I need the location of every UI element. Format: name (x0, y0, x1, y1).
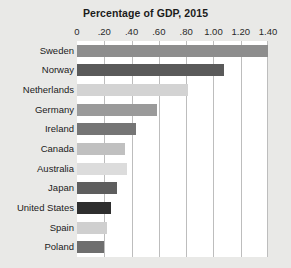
chart-title: Percentage of GDP, 2015 (0, 7, 291, 19)
bar (77, 123, 136, 135)
category-label: Ireland (0, 123, 74, 134)
category-label: Australia (0, 163, 74, 174)
x-tick-label: .20 (98, 26, 111, 37)
bar (77, 104, 157, 116)
bar (77, 202, 111, 214)
x-tick-label: .60 (152, 26, 165, 37)
bars-layer (77, 41, 268, 257)
bar (77, 241, 104, 253)
bar (77, 222, 107, 234)
category-label: Japan (0, 182, 74, 193)
category-label: United States (0, 202, 74, 213)
x-tick-label: 0 (74, 26, 79, 37)
x-tick-label: 1.00 (204, 26, 223, 37)
bar (77, 182, 117, 194)
x-tick-label: 1.20 (231, 26, 250, 37)
bar (77, 163, 127, 175)
category-label: Sweden (0, 45, 74, 56)
x-tick-label: .80 (180, 26, 193, 37)
bar-chart-figure: Percentage of GDP, 2015 0.20.40.60.801.0… (0, 0, 291, 268)
category-label: Norway (0, 64, 74, 75)
x-tick-label: 1.40 (259, 26, 278, 37)
bar (77, 84, 188, 96)
bar (77, 45, 268, 57)
x-tick-label: .40 (125, 26, 138, 37)
bar (77, 64, 224, 76)
category-label: Spain (0, 222, 74, 233)
category-label: Poland (0, 241, 74, 252)
plot-area (77, 41, 268, 257)
category-label: Canada (0, 143, 74, 154)
category-label: Germany (0, 104, 74, 115)
bar (77, 143, 125, 155)
x-axis-tick-labels: 0.20.40.60.801.001.201.40 (0, 26, 291, 39)
category-label: Netherlands (0, 84, 74, 95)
category-axis-labels: SwedenNorwayNetherlandsGermanyIrelandCan… (0, 41, 74, 257)
